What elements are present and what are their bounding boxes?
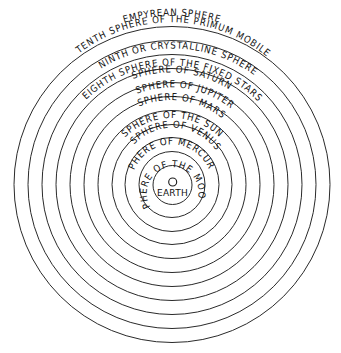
label-tenth-sphere: TENTH SPHERE OF THE PRIMUM MOBILE bbox=[73, 13, 273, 59]
label-earth: EARTH bbox=[157, 188, 188, 198]
celestial-spheres-diagram: EMPYREAN SPHERE TENTH SPHERE OF THE PRIM… bbox=[0, 0, 341, 353]
earth-icon bbox=[169, 178, 177, 186]
earth-center: EARTH bbox=[157, 178, 188, 198]
